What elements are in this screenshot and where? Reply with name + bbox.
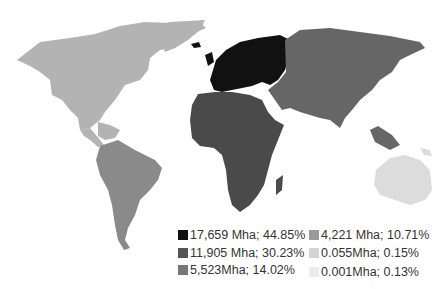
legend-swatch [309, 267, 319, 277]
region-asia [268, 28, 425, 150]
legend-item: 11,905 Mha; 30.23% [178, 246, 304, 260]
legend-swatch [178, 230, 188, 240]
map-legend: 17,659 Mha; 44.85% 11,905 Mha; 30.23% 5,… [178, 228, 446, 288]
region-africa [190, 92, 284, 212]
legend-item: 4,221 Mha; 10.71% [309, 228, 429, 242]
legend-swatch [309, 248, 319, 258]
legend-label: 0.001Mha; 0.13% [321, 265, 419, 279]
legend-swatch [309, 230, 319, 240]
legend-label: 11,905 Mha; 30.23% [190, 246, 304, 260]
legend-label: 5,523Mha; 14.02% [190, 263, 295, 277]
legend-item: 0.001Mha; 0.13% [309, 265, 419, 279]
region-australia [374, 148, 432, 205]
region-south-america [96, 140, 162, 250]
legend-label: 4,221 Mha; 10.71% [321, 228, 429, 242]
legend-item: 5,523Mha; 14.02% [178, 263, 295, 277]
legend-item: 0.055Mha; 0.15% [309, 246, 419, 260]
region-europe [191, 35, 290, 92]
legend-swatch [178, 265, 188, 275]
legend-label: 17,659 Mha; 44.85% [190, 228, 305, 242]
legend-item: 17,659 Mha; 44.85% [178, 228, 305, 242]
legend-swatch [178, 248, 188, 258]
legend-label: 0.055Mha; 0.15% [321, 246, 419, 260]
